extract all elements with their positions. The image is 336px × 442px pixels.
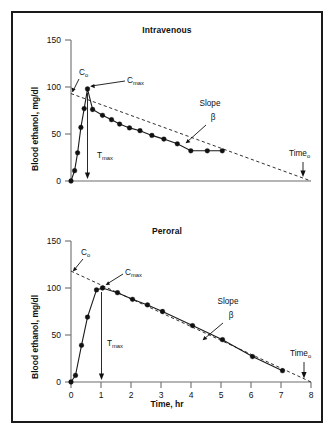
- annotation-cmax-peroral: Cmax: [125, 268, 142, 278]
- x-ticks-peroral: [71, 382, 311, 388]
- annotation-time0-peroral: Timeo: [290, 349, 311, 359]
- chart-svg-intravenous: 150 100 50 0: [13, 13, 321, 213]
- y-tick-label-100-po: 100: [47, 283, 61, 293]
- arrowhead-time0-intravenous: [300, 171, 305, 177]
- annotation-beta-peroral: β: [229, 311, 234, 320]
- annotation-c0-peroral: Co: [81, 248, 90, 258]
- arrow-cmax-intravenous: [92, 81, 126, 86]
- annotation-beta-intravenous: β: [211, 113, 216, 122]
- data-points-peroral: [69, 286, 285, 385]
- y-tick-label-50-iv: 50: [52, 129, 62, 139]
- annotation-c0-intravenous: Co: [79, 68, 88, 78]
- y-tick-label-100-iv: 100: [47, 82, 61, 92]
- figure-frame: Intravenous Blood ethanol, mg/dl 150 100…: [11, 11, 323, 423]
- arrowhead-cmax-peroral: [106, 281, 110, 285]
- x-tick-label-8: 8: [309, 390, 314, 400]
- chart-panel-peroral: Peroral Blood ethanol, mg/dl Time, hr 15…: [13, 213, 321, 421]
- chart-svg-peroral: 150 100 50 0 0 1 2 3 4 5 6 7: [13, 213, 321, 421]
- y-tick-label-150-po: 150: [47, 236, 61, 246]
- annotation-slope-intravenous: Slope: [200, 99, 221, 108]
- arrowhead-cmax-intravenous: [90, 84, 95, 88]
- x-tick-label-3: 3: [159, 390, 164, 400]
- arrowhead-tmax-peroral: [99, 374, 104, 380]
- extrapolation-line-intravenous: [71, 94, 311, 181]
- y-tick-label-150-iv: 150: [47, 35, 61, 45]
- annotation-slope-peroral: Slope: [218, 297, 239, 306]
- x-tick-label-7: 7: [279, 390, 284, 400]
- x-tick-label-0: 0: [69, 390, 74, 400]
- x-tick-label-4: 4: [189, 390, 194, 400]
- arrowhead-c0-peroral: [73, 267, 78, 271]
- arrowhead-time0-peroral: [301, 372, 306, 378]
- y-tick-label-0-iv: 0: [56, 176, 61, 186]
- data-curve-peroral: [71, 288, 283, 382]
- x-tick-label-1: 1: [99, 390, 104, 400]
- annotation-cmax-intravenous: Cmax: [127, 76, 144, 86]
- y-tick-label-50-po: 50: [52, 330, 62, 340]
- chart-panel-intravenous: Intravenous Blood ethanol, mg/dl 150 100…: [13, 13, 321, 213]
- annotation-tmax-intravenous: Tmax: [97, 151, 113, 161]
- annotation-tmax-peroral: Tmax: [107, 339, 123, 349]
- arrow-cmax-peroral: [107, 274, 123, 284]
- x-tick-label-2: 2: [129, 390, 134, 400]
- arrowhead-tmax-intravenous: [85, 173, 90, 179]
- y-tick-label-0-po: 0: [56, 377, 61, 387]
- annotation-time0-intravenous: Timeo: [289, 149, 310, 159]
- x-tick-label-5: 5: [219, 390, 224, 400]
- arrowhead-c0-intravenous: [71, 88, 75, 92]
- x-tick-label-6: 6: [249, 390, 254, 400]
